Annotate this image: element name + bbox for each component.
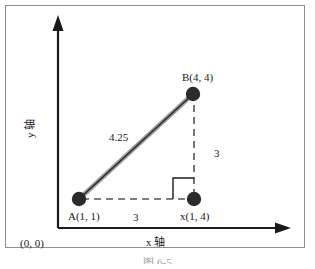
y-axis-label: y 轴: [25, 119, 36, 138]
y-axis: [53, 15, 64, 228]
figure-container: B(4, 4) A(1, 1) x(1, 4) 4.25 3 3 (0, 0) …: [0, 0, 315, 269]
point-label-b: B(4, 4): [182, 72, 213, 83]
point-label-a: A(1, 1): [68, 211, 100, 222]
point-label-x: x(1, 4): [180, 211, 209, 222]
segment-length-label-horizontal: 3: [133, 212, 139, 223]
coordinate-plot: [6, 6, 306, 249]
figure-frame: B(4, 4) A(1, 1) x(1, 4) 4.25 3 3 (0, 0) …: [5, 5, 305, 248]
figure-caption: 图 6-5: [0, 254, 315, 269]
point-marker-a: [72, 192, 86, 206]
arrow-right-icon: [275, 223, 291, 234]
origin-label: (0, 0): [20, 238, 44, 249]
x-axis-label: x 轴: [146, 237, 165, 248]
segment-a-to-b: [79, 94, 193, 199]
point-marker-b: [186, 87, 200, 101]
segment-length-label-vertical: 3: [214, 148, 220, 159]
point-marker-x: [187, 192, 201, 206]
arrow-up-icon: [53, 15, 64, 31]
x-axis: [58, 223, 291, 234]
segment-length-label-hypotenuse: 4.25: [109, 132, 128, 143]
figure-caption-text: 图 6-5: [143, 257, 171, 264]
